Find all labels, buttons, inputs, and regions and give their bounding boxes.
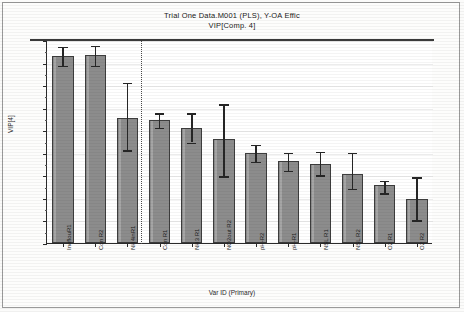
- error-bar: [127, 83, 129, 151]
- x-tick: [127, 243, 128, 247]
- x-tick: [192, 243, 193, 247]
- x-tick: [224, 243, 225, 247]
- x-axis-title: Var ID (Primary): [0, 289, 464, 296]
- error-cap-upper: [251, 145, 260, 147]
- x-tick-label: O2 R2: [419, 233, 425, 250]
- x-tick: [256, 243, 257, 247]
- x-tick-label: InoflouR1: [66, 224, 72, 250]
- x-tick-label: NSL R2: [355, 229, 361, 250]
- y-tick: [43, 41, 47, 42]
- y-tick-minor: [45, 143, 48, 144]
- x-tick: [63, 243, 64, 247]
- y-tick: [43, 154, 47, 155]
- y-tick: [43, 86, 47, 87]
- error-bar: [255, 145, 257, 162]
- bar[interactable]: [245, 153, 266, 243]
- gridline: [47, 41, 433, 42]
- x-tick: [320, 243, 321, 247]
- bar[interactable]: [181, 128, 202, 243]
- error-bar: [95, 46, 97, 66]
- y-tick-minor: [45, 210, 48, 211]
- x-tick: [417, 243, 418, 247]
- x-tick-label: NH3 R1: [194, 229, 200, 250]
- y-axis-title: VIP[4]: [7, 115, 14, 133]
- reference-line: [141, 41, 142, 244]
- error-cap-lower: [123, 150, 132, 152]
- x-tick-label: pH-R2: [259, 233, 265, 250]
- error-cap-lower: [155, 128, 164, 130]
- error-cap-upper: [412, 177, 421, 179]
- chart-subtitle: VIP[Comp. 4]: [0, 21, 464, 30]
- error-cap-upper: [316, 152, 325, 154]
- error-cap-upper: [58, 47, 67, 49]
- y-tick-minor: [45, 52, 48, 53]
- error-bar: [62, 47, 64, 66]
- x-tick-label: Con R2: [98, 230, 104, 250]
- bar[interactable]: [52, 56, 73, 243]
- error-bar: [384, 181, 386, 193]
- chart-page: Trial One Data.M001 (PLS), Y-OA Effic VI…: [0, 0, 464, 312]
- y-tick: [43, 244, 47, 245]
- error-cap-upper: [187, 113, 196, 115]
- error-cap-upper: [284, 153, 293, 155]
- error-cap-lower: [412, 220, 421, 222]
- y-tick-minor: [45, 188, 48, 189]
- plot-area: 0.000.200.400.600.801.001.201.401.601.80…: [46, 41, 432, 244]
- y-tick-minor: [45, 75, 48, 76]
- x-tick-label: NO2out R2: [226, 220, 232, 250]
- error-bar: [191, 113, 193, 142]
- x-tick-label: pH-R1: [291, 233, 297, 250]
- error-cap-lower: [187, 143, 196, 145]
- y-tick: [43, 109, 47, 110]
- y-tick-minor: [45, 120, 48, 121]
- x-tick-label: NSL R1: [323, 229, 329, 250]
- x-tick-label: Con R1: [162, 230, 168, 250]
- error-cap-lower: [348, 189, 357, 191]
- error-cap-upper: [91, 46, 100, 48]
- error-cap-upper: [219, 104, 228, 106]
- x-tick: [95, 243, 96, 247]
- y-tick: [43, 64, 47, 65]
- x-tick-label: NH4inR1: [130, 226, 136, 250]
- bar[interactable]: [85, 55, 106, 243]
- error-cap-lower: [251, 162, 260, 164]
- error-bar: [352, 153, 354, 189]
- y-tick-minor: [45, 97, 48, 98]
- bar[interactable]: [149, 120, 170, 243]
- error-cap-upper: [380, 181, 389, 183]
- error-cap-upper: [123, 83, 132, 85]
- y-tick: [43, 131, 47, 132]
- y-tick-minor: [45, 233, 48, 234]
- error-cap-lower: [58, 66, 67, 68]
- error-cap-lower: [284, 171, 293, 173]
- error-cap-lower: [380, 193, 389, 195]
- y-tick-minor: [45, 165, 48, 166]
- error-cap-upper: [348, 153, 357, 155]
- chart-title: Trial One Data.M001 (PLS), Y-OA Effic: [0, 11, 464, 20]
- y-tick: [43, 176, 47, 177]
- error-cap-upper: [155, 113, 164, 115]
- x-tick: [385, 243, 386, 247]
- error-cap-lower: [219, 176, 228, 178]
- error-bar: [288, 153, 290, 171]
- error-bar: [320, 152, 322, 176]
- error-bar: [223, 104, 225, 176]
- error-bar: [416, 177, 418, 220]
- error-cap-lower: [316, 175, 325, 177]
- error-cap-lower: [91, 66, 100, 68]
- x-tick: [160, 243, 161, 247]
- x-tick: [288, 243, 289, 247]
- y-tick: [43, 199, 47, 200]
- x-tick: [353, 243, 354, 247]
- x-tick-label: O2 R1: [387, 233, 393, 250]
- y-tick: [43, 221, 47, 222]
- error-bar: [159, 113, 161, 128]
- bar[interactable]: [278, 161, 299, 243]
